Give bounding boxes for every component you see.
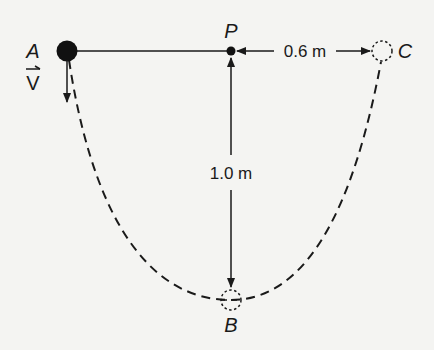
measurement-vertical: 1.0 m — [210, 164, 253, 183]
label-b: B — [224, 314, 237, 336]
label-v: V — [26, 72, 40, 94]
ball-a — [57, 41, 78, 62]
measurement-horizontal: 0.6 m — [284, 42, 327, 61]
pivot-p — [227, 47, 236, 56]
position-c — [372, 41, 392, 61]
label-a: A — [25, 40, 39, 62]
label-c: C — [398, 40, 413, 62]
pendulum-diagram: A V P C B 0.6 m 1.0 m — [0, 0, 434, 350]
label-p: P — [224, 20, 238, 42]
